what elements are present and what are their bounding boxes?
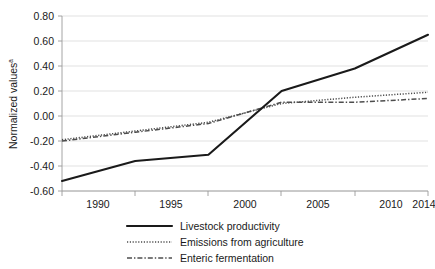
y-tick-label-0: 0.80 bbox=[34, 10, 55, 22]
y-tick-label-5: -0.20 bbox=[30, 135, 54, 147]
x-tick-label-1: 1995 bbox=[159, 198, 183, 210]
x-tick-label-5: 2014 bbox=[412, 198, 435, 210]
y-axis-title-group: Normalized valuesa bbox=[7, 59, 19, 149]
legend-label-enteric-fermentation: Enteric fermentation bbox=[180, 252, 274, 264]
y-tick-label-3: 0.20 bbox=[34, 85, 55, 97]
legend-label-emissions-from-agriculture: Emissions from agriculture bbox=[180, 236, 304, 248]
y-tick-label-1: 0.60 bbox=[34, 35, 55, 47]
y-axis-title: Normalized valuesa bbox=[7, 59, 19, 149]
x-tick-label-4: 2010 bbox=[379, 198, 403, 210]
y-axis-title-text: Normalized values bbox=[7, 63, 19, 149]
x-tick-label-3: 2005 bbox=[306, 198, 330, 210]
y-tick-label-7: -0.60 bbox=[30, 185, 54, 197]
y-tick-label-6: -0.40 bbox=[30, 160, 54, 172]
chart-figure: 0.80 0.60 0.40 0.20 0.00 -0.20 -0.40 -0.… bbox=[0, 0, 435, 269]
legend-label-livestock-productivity: Livestock productivity bbox=[180, 220, 281, 232]
line-chart: 0.80 0.60 0.40 0.20 0.00 -0.20 -0.40 -0.… bbox=[0, 0, 435, 269]
y-tick-label-4: 0.00 bbox=[34, 110, 55, 122]
y-axis-title-superscript: a bbox=[7, 59, 14, 63]
x-tick-label-2: 2000 bbox=[233, 198, 257, 210]
x-tick-label-0: 1990 bbox=[86, 198, 110, 210]
y-tick-label-2: 0.40 bbox=[34, 60, 55, 72]
